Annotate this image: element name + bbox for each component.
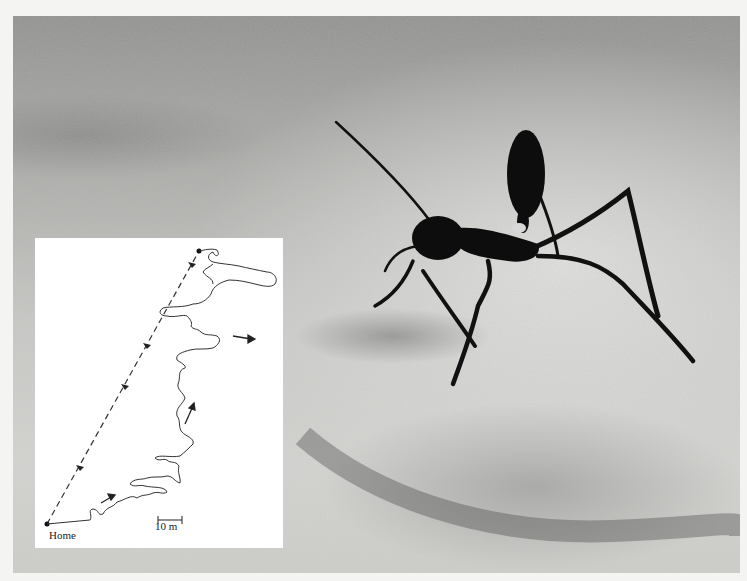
outbound-path-line [47,249,276,524]
path-diagram-svg [35,238,283,548]
home-label: Home [49,529,76,541]
return-path-line [47,251,199,524]
foraging-path-diagram: Home 10 m [35,238,283,548]
scale-bar-label: 10 m [155,520,177,532]
